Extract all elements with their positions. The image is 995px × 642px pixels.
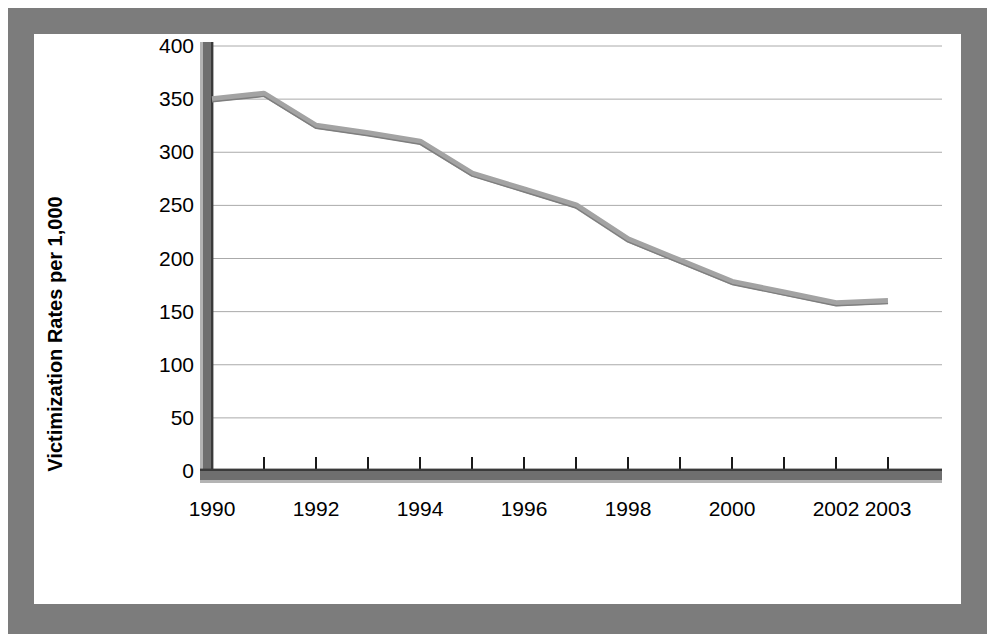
x-axis-line	[200, 469, 942, 471]
x-axis-tick-label: 1994	[397, 497, 444, 520]
series-line-victimization-rate	[212, 94, 888, 303]
x-axis-tick-label: 1990	[189, 497, 236, 520]
y-axis-tick-label: 200	[159, 247, 194, 270]
y-axis-bar-highlight	[200, 42, 203, 483]
chart-plot-panel: 050100150200250300350400 199019921994199…	[34, 34, 961, 604]
line-chart: 050100150200250300350400 199019921994199…	[34, 34, 961, 604]
data-series-line	[212, 94, 888, 306]
y-axis-line	[211, 42, 213, 483]
x-axis-tick-label: 2003	[865, 497, 912, 520]
x-axis-tick-label: 1996	[501, 497, 548, 520]
series-line-shadow	[212, 96, 888, 305]
x-axis-tick-marks	[212, 457, 888, 469]
x-axis-tick-label: 1998	[605, 497, 652, 520]
chart-frame-border: 050100150200250300350400 199019921994199…	[8, 8, 987, 634]
y-axis-tick-labels: 050100150200250300350400	[159, 34, 194, 482]
x-axis-tick-label: 2002	[813, 497, 860, 520]
x-axis-tick-label: 2000	[709, 497, 756, 520]
y-axis-tick-label: 150	[159, 300, 194, 323]
y-axis-tick-label: 350	[159, 87, 194, 110]
axis-bars	[200, 42, 942, 483]
gridline-group	[212, 46, 942, 418]
x-axis-bar-highlight	[200, 480, 942, 483]
x-axis-tick-labels: 19901992199419961998200020022003	[189, 497, 912, 520]
y-axis-tick-label: 300	[159, 140, 194, 163]
y-axis-tick-label: 0	[182, 459, 194, 482]
y-axis-title: Victimization Rates per 1,000	[44, 196, 66, 471]
y-axis-tick-label: 250	[159, 193, 194, 216]
y-axis-tick-label: 100	[159, 353, 194, 376]
figure-container: 050100150200250300350400 199019921994199…	[0, 0, 995, 642]
x-axis-tick-label: 1992	[293, 497, 340, 520]
y-axis-tick-label: 50	[171, 406, 194, 429]
y-axis-tick-label: 400	[159, 34, 194, 57]
